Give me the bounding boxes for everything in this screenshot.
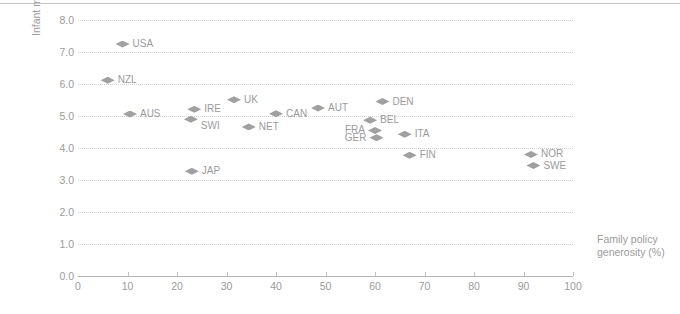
x-axis-tick-label: 90: [504, 281, 544, 292]
x-axis-tick: [425, 272, 426, 276]
x-axis-tick-label: 20: [157, 281, 197, 292]
gridline: [78, 84, 573, 85]
data-point-label: AUS: [140, 109, 161, 119]
x-axis-tick: [128, 272, 129, 276]
x-axis-tick: [227, 272, 228, 276]
gridline: [78, 52, 573, 53]
x-axis-tick: [524, 272, 525, 276]
x-axis-tick: [276, 272, 277, 276]
diamond-marker-icon: [369, 134, 383, 141]
y-axis-label-holder: Infant mortality (per 1000 births): [36, 18, 37, 19]
chart-figure: Infant mortality (per 1000 births) 0.01.…: [0, 0, 680, 314]
x-axis-tick: [326, 272, 327, 276]
data-point-label: SWI: [201, 121, 220, 131]
x-axis-tick-label: 80: [454, 281, 494, 292]
data-point-label: GER: [345, 133, 367, 143]
data-point-label: UK: [244, 95, 258, 105]
data-point-label: FIN: [420, 150, 436, 160]
diamond-marker-icon: [116, 41, 130, 48]
x-axis-tick-label: 30: [207, 281, 247, 292]
x-axis-tick-label: 60: [355, 281, 395, 292]
y-axis-tick-label: 8.0: [40, 15, 74, 26]
diamond-marker-icon: [242, 123, 256, 130]
data-point-label: IRE: [204, 104, 221, 114]
x-axis-tick-label: 70: [405, 281, 445, 292]
diamond-marker-icon: [187, 106, 201, 113]
diamond-marker-icon: [403, 152, 417, 159]
gridline: [78, 244, 573, 245]
diamond-marker-icon: [363, 117, 377, 124]
y-axis-tick-label: 5.0: [40, 111, 74, 122]
y-axis-tick-labels: 0.01.02.03.04.05.06.07.08.0: [38, 0, 74, 276]
gridline: [78, 180, 573, 181]
diamond-marker-icon: [524, 151, 538, 158]
x-axis-tick-label: 40: [256, 281, 296, 292]
gridline: [78, 148, 573, 149]
x-axis-tick-label: 100: [553, 281, 593, 292]
x-axis-tick: [474, 272, 475, 276]
diamond-marker-icon: [398, 131, 412, 138]
y-axis-tick-label: 7.0: [40, 47, 74, 58]
diamond-marker-icon: [185, 168, 199, 175]
x-axis-label: Family policy generosity (%): [597, 233, 675, 258]
gridline: [78, 20, 573, 21]
y-axis-tick-label: 1.0: [40, 239, 74, 250]
data-point-label: AUT: [328, 103, 348, 113]
x-axis-tick: [573, 272, 574, 276]
x-axis-tick: [375, 272, 376, 276]
data-point-label: NZL: [118, 75, 137, 85]
diamond-marker-icon: [526, 162, 540, 169]
data-point-label: BEL: [380, 115, 399, 125]
data-point-label: JAP: [202, 166, 220, 176]
x-axis-tick-label: 50: [306, 281, 346, 292]
gridline: [78, 212, 573, 213]
y-axis-tick-label: 3.0: [40, 175, 74, 186]
y-axis-tick-label: 2.0: [40, 207, 74, 218]
data-point-label: CAN: [286, 109, 307, 119]
x-axis-line: [78, 276, 573, 277]
data-point-label: NOR: [541, 149, 563, 159]
diamond-marker-icon: [368, 127, 382, 134]
diamond-marker-icon: [311, 105, 325, 112]
x-axis-tick: [177, 272, 178, 276]
y-axis-tick-label: 6.0: [40, 79, 74, 90]
diamond-marker-icon: [227, 96, 241, 103]
data-point-label: ITA: [415, 129, 430, 139]
y-axis-tick-label: 4.0: [40, 143, 74, 154]
x-axis-tick-label: 0: [58, 281, 98, 292]
data-point-label: USA: [133, 39, 154, 49]
diamond-marker-icon: [375, 98, 389, 105]
data-point-label: SWE: [543, 161, 566, 171]
header-divider: [0, 3, 680, 4]
diamond-marker-icon: [101, 77, 115, 84]
data-point-label: NET: [259, 122, 279, 132]
data-point-label: DEN: [392, 97, 413, 107]
plot-area: USANZLAUSJAPIRESWIUKNETCANAUTDENBELFRAGE…: [78, 20, 573, 276]
x-axis-tick-label: 10: [108, 281, 148, 292]
y-axis-tick-label: 0.0: [40, 271, 74, 282]
